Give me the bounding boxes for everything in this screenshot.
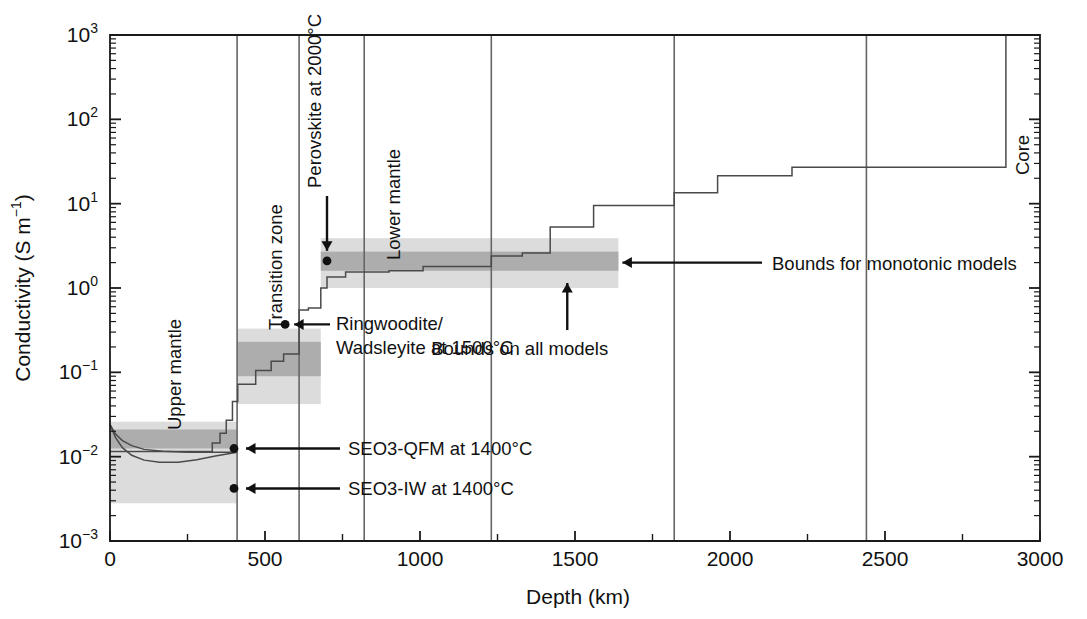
annotation-arrow-perovskite xyxy=(322,196,333,251)
x-tick-label: 1000 xyxy=(397,547,444,570)
conductivity-depth-chart: 05001000150020002500300010−310−210−11001… xyxy=(0,0,1087,619)
y-tick-label: 103 xyxy=(67,20,98,46)
x-tick-label: 2000 xyxy=(707,547,754,570)
x-tick-label: 1500 xyxy=(552,547,599,570)
annotation-arrow-seo3-qfm xyxy=(246,443,340,454)
region-label-transition-zone: Transition zone xyxy=(265,204,286,330)
annotation-label-seo3-qfm: SEO3-QFM at 1400°C xyxy=(348,438,532,459)
chart-figure: 05001000150020002500300010−310−210−11001… xyxy=(0,0,1087,619)
annotation-arrow-monotonic-bounds xyxy=(622,257,762,268)
annotation-label-ringwoodite: Ringwoodite/ xyxy=(336,313,444,334)
y-tick-label: 10−3 xyxy=(59,526,99,552)
data-point-seo3-qfm-1400C xyxy=(230,444,239,453)
annotation-label-seo3-iw: SEO3-IW at 1400°C xyxy=(348,478,514,499)
annotation-label-monotonic-bounds: Bounds for monotonic models xyxy=(772,253,1017,274)
y-tick-label: 10−1 xyxy=(59,357,99,383)
annotation-arrow-all-bounds xyxy=(562,283,573,330)
region-label-lower-mantle: Lower mantle xyxy=(383,149,404,260)
y-tick-label: 100 xyxy=(67,273,98,299)
data-point-perovskite-2000C xyxy=(323,256,332,265)
y-tick-label: 10−2 xyxy=(59,442,99,468)
annotation-label-perovskite: Perovskite at 2000°C xyxy=(304,14,325,188)
y-axis-title: Conductivity (S m−1) xyxy=(8,194,34,382)
arrow-head xyxy=(246,483,256,494)
x-tick-label: 0 xyxy=(104,547,116,570)
arrow-head xyxy=(622,257,632,268)
band-bounds-for-monotonic-models-upper-mantle xyxy=(110,429,237,448)
y-tick-label: 101 xyxy=(67,189,98,215)
x-tick-label: 500 xyxy=(247,547,282,570)
band-bounds-for-monotonic-models-lower-mantle xyxy=(321,252,619,271)
region-label-upper-mantle: Upper mantle xyxy=(164,319,185,430)
band-bounds-for-monotonic-models-transition xyxy=(237,342,321,376)
x-tick-label: 2500 xyxy=(862,547,909,570)
x-tick-label: 3000 xyxy=(1017,547,1064,570)
annotation-label-all-bounds: Bounds on all models xyxy=(431,338,608,359)
arrow-head xyxy=(246,443,256,454)
x-axis-title: Depth (km) xyxy=(526,585,630,608)
data-point-seo3-iw-1400C xyxy=(230,484,239,493)
annotation-arrow-seo3-iw xyxy=(246,483,340,494)
y-tick-label: 102 xyxy=(67,104,98,130)
region-label-core: Core xyxy=(1012,135,1033,175)
